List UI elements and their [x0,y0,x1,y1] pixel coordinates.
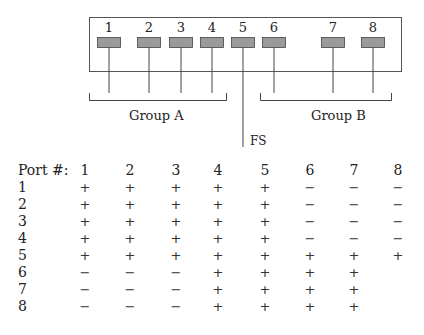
table-cell: − [300,231,320,246]
column-header: 7 [344,162,364,178]
port-2-rect [138,38,161,48]
table-cell: + [120,197,140,212]
table-cell: + [208,197,228,212]
table-cell: + [120,248,140,263]
table-cell: + [75,231,95,246]
table-cell: − [300,214,320,229]
column-header: 6 [300,162,320,178]
table-cell: + [166,214,186,229]
table-cell: + [255,180,275,195]
table-cell: − [388,197,408,212]
table-cell: + [208,248,228,263]
column-header: 1 [75,162,95,178]
column-header: 5 [255,162,275,178]
group-b-label: Group B [311,108,366,123]
port-label-3: 3 [169,20,193,35]
table-cell: + [255,197,275,212]
table-cell: + [120,231,140,246]
column-header: 3 [166,162,186,178]
port-5-rect [232,38,255,48]
port-cables [109,47,373,147]
table-cell: − [300,197,320,212]
column-header: 8 [388,162,408,178]
table-cell: − [166,265,186,280]
table-cell: + [255,248,275,263]
table-cell: + [300,248,320,263]
group-a-bracket [90,93,227,101]
port-4-rect [201,38,224,48]
table-cell: − [166,299,186,314]
table-cell: + [208,299,228,314]
table-cell: − [344,231,364,246]
table-cell: + [208,282,228,297]
column-header: 2 [120,162,140,178]
port-label-5: 5 [231,20,255,35]
column-header: 4 [208,162,228,178]
table-cell: − [344,197,364,212]
table-cell: + [344,248,364,263]
table-cell: + [166,197,186,212]
table-cell: + [166,248,186,263]
table-cell: + [75,197,95,212]
table-cell: − [75,299,95,314]
port-8-rect [362,38,385,48]
row-header: 6 [18,264,27,280]
table-cell: − [120,265,140,280]
table-cell: + [120,180,140,195]
table-cell: + [300,265,320,280]
row-header: 5 [18,247,27,263]
group-b-bracket [261,93,392,101]
port-label-1: 1 [97,20,121,35]
switch-port-diagram: 1 2 3 4 5 6 7 8 Group A Group B FS [0,0,424,160]
port-label-6: 6 [262,20,286,35]
table-cell: + [166,180,186,195]
row-header: 7 [18,281,27,297]
port-1-rect [98,38,121,48]
port-label-7: 7 [321,20,345,35]
table-cell: − [166,282,186,297]
port-6-rect [263,38,286,48]
table-cell: − [388,231,408,246]
table-cell: + [75,248,95,263]
port-label-4: 4 [200,20,224,35]
table-cell: + [255,265,275,280]
table-cell: + [208,231,228,246]
fs-label: FS [250,134,267,148]
port-label-2: 2 [137,20,161,35]
table-cell: − [388,214,408,229]
table-cell: + [208,265,228,280]
row-header: 4 [18,230,27,246]
port-rects [98,38,385,48]
table-cell: + [75,180,95,195]
table-cell: + [300,282,320,297]
port-7-rect [322,38,345,48]
table-cell: + [344,299,364,314]
table-cell: + [255,214,275,229]
table-cell: + [208,180,228,195]
table-header-label: Port #: [18,162,69,178]
table-cell: + [255,282,275,297]
table-cell: + [255,231,275,246]
table-cell: + [344,265,364,280]
row-header: 8 [18,298,27,314]
row-header: 2 [18,196,27,212]
table-cell: − [120,282,140,297]
port-connectivity-table: Port #: 1 2 3 4 5 6 7 8 1+++++−−−2+++++−… [0,160,424,335]
table-cell: − [388,180,408,195]
table-cell: + [208,214,228,229]
table-cell: + [166,231,186,246]
table-cell: + [120,214,140,229]
port-label-8: 8 [361,20,385,35]
table-cell: + [388,248,408,263]
table-cell: + [75,214,95,229]
group-a-label: Group A [129,108,184,123]
table-cell: − [120,299,140,314]
table-cell: − [75,282,95,297]
row-header: 1 [18,179,27,195]
table-cell: + [300,299,320,314]
table-cell: − [344,180,364,195]
table-cell: + [344,282,364,297]
table-cell: − [300,180,320,195]
table-cell: − [75,265,95,280]
table-cell: + [255,299,275,314]
